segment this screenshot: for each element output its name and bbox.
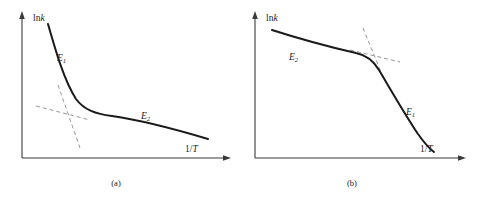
panel-b-x-axis bbox=[255, 155, 466, 161]
panel-b-label-E2: E2 bbox=[288, 52, 299, 63]
arrhenius-figure: lnk 1/T E1 E2 (a) lnk 1/T E2 bbox=[0, 0, 479, 200]
y-axis-arrowhead bbox=[252, 11, 258, 19]
y-axis-arrowhead bbox=[19, 11, 25, 19]
panel-a-x-axis-label: 1/T bbox=[185, 144, 198, 154]
panel-b-steep-tangent bbox=[363, 28, 381, 72]
panel-a-x-axis bbox=[22, 155, 231, 161]
panel-b-x-axis-label: 1/T bbox=[420, 144, 433, 154]
panel-b-curve bbox=[272, 30, 434, 152]
panel-a-y-axis bbox=[19, 11, 25, 158]
panel-b-caption: (b) bbox=[347, 178, 357, 188]
panel-b: lnk 1/T E2 E1 (b) bbox=[252, 11, 466, 188]
panel-b-label-E1: E1 bbox=[405, 107, 415, 118]
panel-a-label-E2: E2 bbox=[140, 111, 151, 122]
panel-b-y-axis-label: lnk bbox=[266, 13, 278, 23]
panel-a-caption: (a) bbox=[111, 178, 121, 188]
panel-a-label-E1: E1 bbox=[56, 53, 66, 64]
panel-b-y-axis bbox=[252, 11, 258, 158]
panel-a: lnk 1/T E1 E2 (a) bbox=[19, 11, 231, 188]
panel-a-curve bbox=[48, 24, 208, 139]
panel-a-shallow-tangent bbox=[36, 106, 90, 120]
x-axis-arrowhead bbox=[223, 155, 231, 161]
x-axis-arrowhead bbox=[458, 155, 466, 161]
panel-a-y-axis-label: lnk bbox=[33, 13, 45, 23]
panel-b-shallow-tangent bbox=[350, 50, 400, 62]
